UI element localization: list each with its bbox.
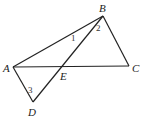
point-label-b: B [99, 2, 106, 14]
geometry-diagram: A B C D E 1 2 3 [0, 0, 142, 122]
point-label-e: E [59, 70, 67, 82]
point-label-d: D [27, 106, 36, 118]
segment-ab [13, 16, 103, 67]
angle-label-2: 2 [96, 23, 101, 33]
point-label-c: C [132, 62, 140, 74]
segment-bd [33, 16, 103, 102]
point-label-a: A [2, 62, 10, 74]
angle-label-1: 1 [71, 33, 76, 43]
angle-label-3: 3 [28, 85, 33, 95]
segment-bc [103, 16, 129, 66]
segment-ac [13, 66, 129, 67]
